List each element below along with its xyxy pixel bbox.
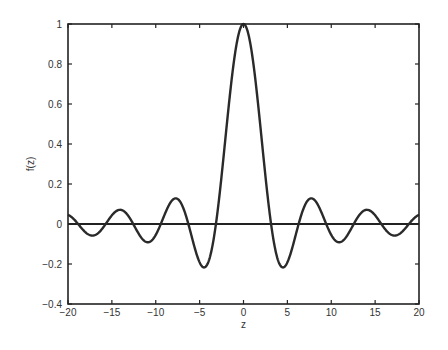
x-axis-label: z [241, 319, 246, 330]
x-tick-label: −15 [103, 307, 120, 318]
sinc-curve [68, 24, 419, 267]
x-tick-label: −20 [60, 307, 77, 318]
y-tick-label: 1 [56, 19, 62, 30]
x-tick-label: 10 [326, 307, 338, 318]
y-axis-ticks: −0.4−0.200.20.40.60.81 [42, 19, 419, 310]
y-tick-label: 0.8 [48, 59, 62, 70]
x-axis-ticks: −20−15−10−505101520 [60, 24, 425, 318]
x-tick-label: 20 [413, 307, 425, 318]
y-tick-label: 0.6 [48, 99, 62, 110]
x-tick-label: −5 [194, 307, 206, 318]
y-tick-label: 0.4 [48, 139, 62, 150]
y-tick-label: 0 [56, 219, 62, 230]
x-tick-label: 0 [241, 307, 247, 318]
plot-frame [68, 24, 419, 304]
x-tick-label: 15 [370, 307, 382, 318]
x-tick-label: 5 [285, 307, 291, 318]
y-axis-label: f(z) [25, 157, 36, 171]
y-tick-label: −0.2 [42, 259, 62, 270]
sinc-chart: −0.4−0.200.20.40.60.81 −20−15−10−5051015… [0, 0, 448, 350]
x-tick-label: −10 [147, 307, 164, 318]
y-tick-label: 0.2 [48, 179, 62, 190]
